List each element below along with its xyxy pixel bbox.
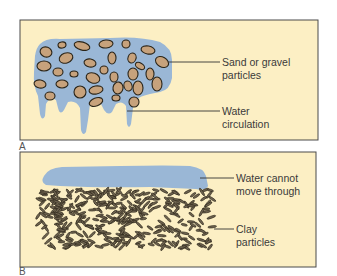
label-sand-gravel-line1: Sand or gravel <box>222 56 290 68</box>
label-clay-line2: particles <box>236 236 275 248</box>
label-water-cannot-line2: move through <box>236 185 300 197</box>
aquifer-diagram: Sand or gravel particles Water circulati… <box>0 0 337 276</box>
label-water-cannot-line1: Water cannot <box>236 172 298 184</box>
label-water-circulation-line2: circulation <box>222 118 269 130</box>
panel-b: Water cannot move through Clay particles… <box>19 152 316 276</box>
label-sand-gravel-line2: particles <box>222 69 261 81</box>
impermeable-water-layer <box>42 166 208 190</box>
panel-letter-a: A <box>19 141 26 152</box>
panel-letter-b: B <box>19 266 26 276</box>
label-water-circulation-line1: Water <box>222 105 250 117</box>
panel-a: Sand or gravel particles Water circulati… <box>19 20 318 152</box>
label-clay-line1: Clay <box>236 223 258 235</box>
